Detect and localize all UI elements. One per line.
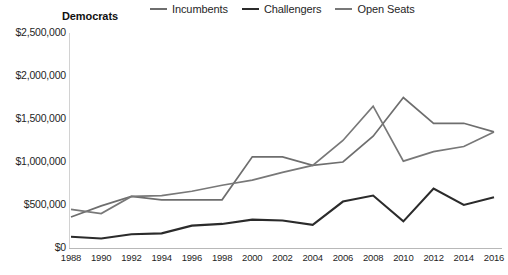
y-tick-label: $2,500,000 [0,27,66,38]
y-axis-labels: $2,500,000$2,000,000$1,500,000$1,000,000… [0,0,66,275]
y-tick-label: $1,000,000 [0,156,66,167]
series-lines-svg [69,33,501,248]
x-tick-label: 1992 [121,252,141,264]
plot-area [69,33,501,248]
legend-line-swatch-icon [242,8,259,10]
y-tick-label: $2,000,000 [0,70,66,81]
x-axis-labels: 1988199019921994199619982000200220042006… [69,252,502,268]
x-tick-label: 1998 [212,252,232,264]
legend-item-open-seats[interactable]: Open Seats [335,3,414,15]
legend-line-swatch-icon [335,8,352,10]
x-tick-label: 2004 [303,252,323,264]
x-tick-label: 2014 [454,252,474,264]
legend-line-swatch-icon [150,8,167,10]
series-line-incumbents [71,98,494,218]
legend-item-label: Challengers [264,3,322,15]
chart-legend: IncumbentsChallengersOpen Seats [150,0,508,18]
x-tick-label: 2000 [242,252,262,264]
x-tick-label: 2002 [272,252,292,264]
chart-screenshot: IncumbentsChallengersOpen Seats Democrat… [0,0,508,275]
x-tick-label: 1990 [91,252,111,264]
legend-item-label: Incumbents [172,3,228,15]
y-tick-label: $1,500,000 [0,113,66,124]
x-tick-label: 2008 [363,252,383,264]
x-tick-label: 1994 [151,252,171,264]
x-tick-label: 2006 [333,252,353,264]
x-tick-label: 1988 [61,252,81,264]
x-axis-line [69,248,502,249]
y-tick-label: $500,000 [0,199,66,210]
x-tick-label: 2016 [484,252,504,264]
y-tick-label: $0 [0,242,66,253]
x-tick-label: 2010 [393,252,413,264]
legend-item-incumbents[interactable]: Incumbents [150,3,228,15]
legend-item-challengers[interactable]: Challengers [242,3,322,15]
legend-item-label: Open Seats [357,3,414,15]
x-tick-label: 1996 [182,252,202,264]
x-tick-label: 2012 [423,252,443,264]
chart-title: Democrats [62,10,118,23]
